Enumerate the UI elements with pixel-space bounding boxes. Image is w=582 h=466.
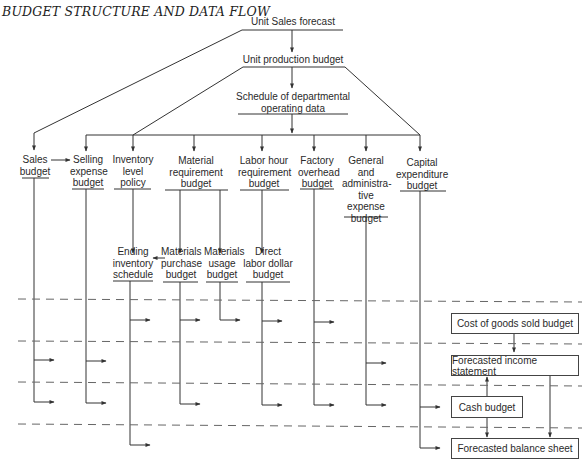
node-direct-labor-dollar-budget: Direct labor dollar budget <box>243 246 293 281</box>
budget-flow-diagram: BUDGET STRUCTURE AND DATA FLOW <box>0 0 582 466</box>
node-ending-inventory-schedule: Ending inventory schedule <box>111 246 155 281</box>
statement-cost-of-goods-sold-budget: Cost of goods sold budget <box>451 313 579 334</box>
statement-forecasted-balance-sheet: Forecasted balance sheet <box>451 438 579 459</box>
statement-forecasted-income-statement: Forecasted income statement <box>451 355 579 376</box>
node-labor-hour-requirement-budget: Labor hour requirement budget <box>238 155 290 190</box>
node-capital-expenditure-budget: Capital expenditure budget <box>396 157 448 192</box>
node-factory-overhead-budget: Factory overhead budget <box>298 155 336 190</box>
node-schedule-departmental-operating-data: Schedule of departmental operating data <box>234 91 352 114</box>
node-materials-purchase-budget: Materials purchase budget <box>161 246 201 281</box>
node-sales-budget: Sales budget <box>18 154 52 177</box>
node-unit-sales-forecast: Unit Sales forecast <box>238 16 348 28</box>
node-unit-production-budget: Unit production budget <box>238 54 348 66</box>
node-materials-usage-budget: Materials usage budget <box>204 246 240 281</box>
node-general-admin-expense-budget: General and administra- tive expense bud… <box>342 155 390 224</box>
node-material-requirement-budget: Material requirement budget <box>164 155 228 190</box>
node-selling-expense-budget: Selling expense budget <box>70 154 106 189</box>
node-inventory-level-policy: Inventory level policy <box>112 154 154 189</box>
statement-cash-budget: Cash budget <box>451 396 523 418</box>
